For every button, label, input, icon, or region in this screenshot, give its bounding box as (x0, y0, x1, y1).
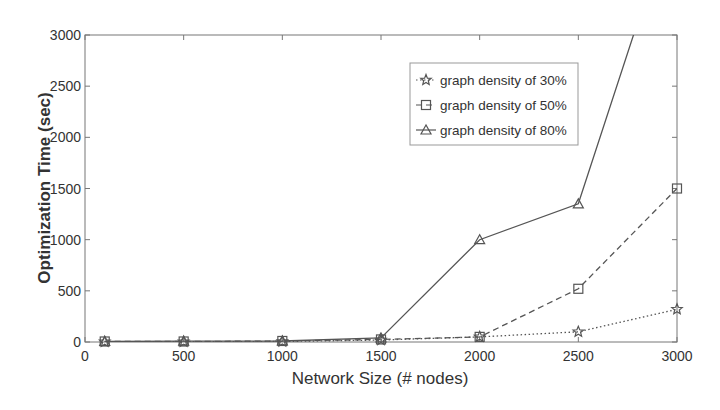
y-tick-label: 2500 (50, 78, 81, 94)
y-axis-label: Optimization Time (sec) (35, 92, 54, 283)
star-marker (573, 326, 584, 336)
legend: graph density of 30%graph density of 50%… (410, 63, 578, 145)
series-line (105, 189, 677, 342)
plot-area (85, 35, 677, 342)
x-axis: 050010001500200025003000 (81, 35, 693, 364)
markers-group (100, 184, 683, 346)
plot-border (85, 35, 677, 342)
y-tick-label: 3000 (50, 27, 81, 43)
x-tick-label: 500 (172, 348, 196, 364)
y-tick-label: 0 (73, 334, 81, 350)
x-tick-label: 2500 (563, 348, 594, 364)
y-tick-label: 500 (58, 283, 82, 299)
y-tick-label: 2000 (50, 129, 81, 145)
line-chart: 050010001500200025003000 050010001500200… (0, 0, 720, 410)
series-line (105, 0, 677, 342)
legend-entry-label: graph density of 50% (440, 98, 567, 113)
x-axis-label: Network Size (# nodes) (292, 369, 469, 388)
legend-entry-label: graph density of 80% (440, 123, 567, 138)
legend-entry-label: graph density of 30% (440, 73, 567, 88)
x-tick-label: 0 (81, 348, 89, 364)
series-group (105, 0, 677, 342)
x-tick-label: 3000 (661, 348, 692, 364)
x-tick-label: 2000 (464, 348, 495, 364)
series-line (105, 309, 677, 342)
x-tick-label: 1000 (267, 348, 298, 364)
y-tick-label: 1000 (50, 232, 81, 248)
y-tick-label: 1500 (50, 181, 81, 197)
x-tick-label: 1500 (365, 348, 396, 364)
